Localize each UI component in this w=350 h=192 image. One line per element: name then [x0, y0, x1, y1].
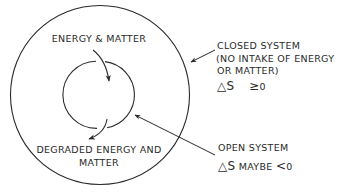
output-label-line1: DEGRADED ENERGY AND — [36, 144, 162, 156]
open-system-entropy: △S MAYBE <0 — [218, 160, 293, 173]
closed-system-note-line1: (NO INTAKE OF ENERGY — [216, 53, 334, 65]
input-label: ENERGY & MATTER — [48, 33, 150, 45]
delta-s-symbol: △S — [218, 159, 235, 173]
input-arrow — [93, 50, 109, 81]
output-arrow — [89, 119, 107, 139]
entropy-value: 0 — [259, 81, 265, 92]
entropy-qualifier: MAYBE — [239, 161, 273, 172]
closed-system-pointer — [191, 50, 215, 62]
entropy-value: 0 — [286, 161, 292, 172]
closed-system-entropy: △S ≥0 — [217, 80, 266, 93]
delta-s-symbol: △S — [217, 79, 234, 93]
closed-system-title: CLOSED SYSTEM — [217, 40, 300, 52]
systems-diagram: ENERGY & MATTER DEGRADED ENERGY AND MATT… — [0, 0, 350, 192]
output-label-line2: MATTER — [36, 157, 162, 169]
greater-equal-symbol: ≥ — [249, 79, 259, 93]
less-than-symbol: < — [276, 159, 286, 173]
open-system-boundary — [63, 61, 135, 128]
closed-system-note-line2: OR MATTER) — [217, 65, 279, 77]
open-system-title: OPEN SYSTEM — [218, 142, 289, 154]
